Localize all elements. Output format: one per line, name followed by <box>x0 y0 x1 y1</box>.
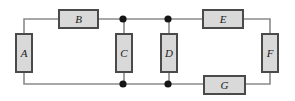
circuit-diagram: ABCDEFG <box>0 0 295 101</box>
wire-a-bottom-to-rail <box>24 54 123 84</box>
component-label-g: G <box>221 80 229 91</box>
component-a[interactable]: A <box>15 33 33 73</box>
component-label-e: E <box>220 14 227 25</box>
junction-dot-j-top-left <box>119 15 126 22</box>
component-g[interactable]: G <box>203 75 246 95</box>
junction-dot-j-bottom-left <box>119 80 126 87</box>
component-d[interactable]: D <box>160 33 178 73</box>
component-b[interactable]: B <box>58 9 99 29</box>
junction-dot-j-bottom-right <box>164 80 171 87</box>
circuit-wiring-layer <box>0 0 295 101</box>
junction-dot-j-top-right <box>164 15 171 22</box>
component-label-a: A <box>21 48 28 59</box>
component-label-d: D <box>165 48 173 59</box>
component-c[interactable]: C <box>115 33 133 73</box>
component-e[interactable]: E <box>202 9 244 29</box>
component-label-b: B <box>75 14 82 25</box>
component-f[interactable]: F <box>261 33 279 73</box>
component-label-f: F <box>267 48 274 59</box>
component-label-c: C <box>120 48 127 59</box>
